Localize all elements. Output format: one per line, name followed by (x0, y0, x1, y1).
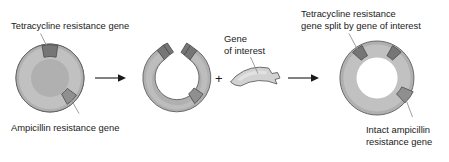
plasmid-cloning-diagram: Tetracycline resistance gene Ampicillin … (0, 0, 449, 162)
plasmid-intact (16, 34, 84, 114)
label-intact-ampicillin-line2: resistance gene (366, 136, 432, 147)
plasmid-intact-tetracycline-segment (42, 45, 58, 58)
leader-line-intact-amp (406, 99, 413, 118)
diagram-canvas: Tetracycline resistance gene Ampicillin … (0, 0, 449, 162)
plus-sign: + (215, 71, 223, 86)
label-gene-of-interest-line2: of interest (224, 45, 266, 56)
arrow-1-head (118, 74, 126, 82)
label-tetracycline-resistance-gene: Tetracycline resistance gene (11, 20, 129, 31)
label-gene-of-interest-line1: Gene (224, 33, 247, 44)
gene-of-interest-body (231, 67, 281, 86)
label-ampicillin-resistance-gene: Ampicillin resistance gene (11, 122, 119, 133)
leader-line-tetracycline (41, 34, 47, 46)
leader-line-split-tet (349, 34, 358, 51)
plasmid-recombinant (340, 34, 414, 118)
arrow-1 (95, 74, 126, 82)
label-intact-ampicillin-line1: Intact ampicillin (366, 124, 430, 135)
arrow-2 (288, 74, 319, 82)
label-split-tetracycline-line2: gene split by gene of interest (301, 20, 421, 31)
plasmid-recombinant-highlight (343, 45, 410, 112)
gene-of-interest-fragment (231, 57, 281, 86)
arrow-2-head (311, 74, 319, 82)
label-split-tetracycline-line1: Tetracycline resistance (301, 8, 396, 19)
plasmid-cut (143, 43, 211, 112)
